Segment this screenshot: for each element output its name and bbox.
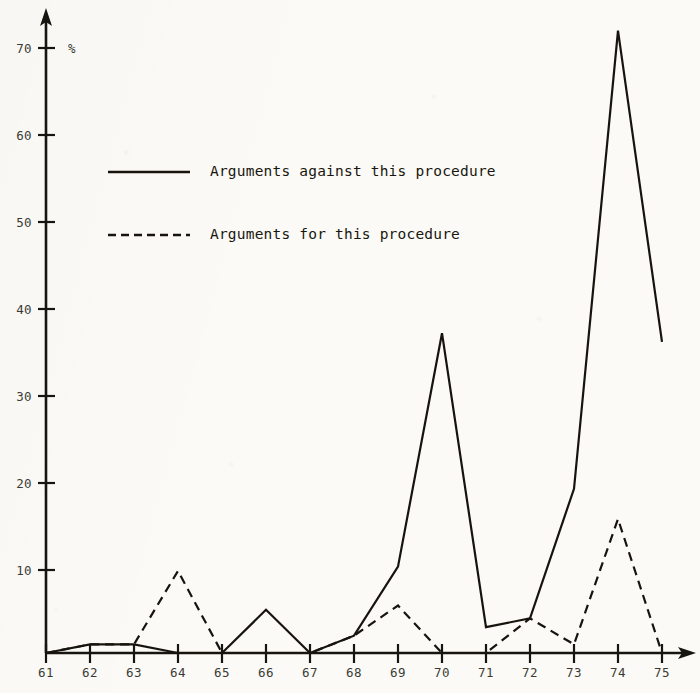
series-line-arguments-against	[46, 31, 662, 653]
x-tick-label-68: 68	[346, 665, 362, 680]
chart-page: 70 60 50 40 30 20 10 % 61 62 63 64 65 66…	[0, 0, 700, 693]
x-tick-label-75: 75	[654, 665, 670, 680]
x-tick-label-63: 63	[126, 665, 142, 680]
y-axis	[38, 8, 55, 653]
x-tick-label-69: 69	[390, 665, 406, 680]
series-line-arguments-for	[46, 519, 662, 653]
legend-label-arguments-against: Arguments against this procedure	[210, 163, 496, 179]
y-axis-unit-label: %	[68, 41, 76, 56]
y-tick-label-50: 50	[6, 215, 32, 230]
y-tick-label-60: 60	[6, 128, 32, 143]
y-tick-label-10: 10	[6, 563, 32, 578]
x-tick-label-65: 65	[214, 665, 230, 680]
x-tick-label-71: 71	[478, 665, 494, 680]
y-tick-label-70: 70	[6, 41, 32, 56]
x-tick-label-70: 70	[434, 665, 450, 680]
y-tick-label-30: 30	[6, 389, 32, 404]
x-tick-label-67: 67	[302, 665, 318, 680]
x-tick-label-61: 61	[38, 665, 54, 680]
x-tick-label-72: 72	[522, 665, 538, 680]
y-tick-label-20: 20	[6, 476, 32, 491]
x-tick-label-74: 74	[610, 665, 626, 680]
x-tick-label-66: 66	[258, 665, 274, 680]
x-tick-label-62: 62	[82, 665, 98, 680]
legend-label-arguments-for: Arguments for this procedure	[210, 226, 460, 242]
x-tick-label-64: 64	[170, 665, 186, 680]
x-tick-label-73: 73	[566, 665, 582, 680]
line-chart-canvas	[0, 0, 700, 693]
y-tick-label-40: 40	[6, 302, 32, 317]
